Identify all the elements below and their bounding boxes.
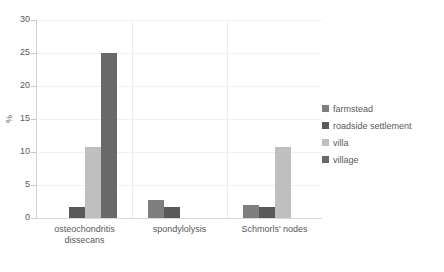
- x-category-label: Schmorls' nodes: [227, 224, 322, 235]
- x-axis-line: [37, 218, 322, 219]
- y-axis-ticks: 302520151050: [0, 0, 30, 272]
- bar: [69, 207, 85, 218]
- legend-swatch-icon: [322, 105, 329, 112]
- y-tick-label: 30: [4, 15, 30, 24]
- y-tick-mark: [31, 152, 36, 153]
- bar-group: [132, 20, 227, 218]
- y-tick-label: 15: [4, 114, 30, 123]
- y-tick-mark: [31, 86, 36, 87]
- legend-swatch-icon: [322, 156, 329, 163]
- legend-label: farmstead: [333, 104, 373, 114]
- y-tick-label: 20: [4, 81, 30, 90]
- y-tick-mark: [31, 20, 36, 21]
- bar: [259, 207, 275, 218]
- bar: [148, 200, 164, 218]
- legend-label: roadside settlement: [333, 121, 412, 131]
- x-category-label: spondylolysis: [132, 224, 227, 235]
- bar-chart: % 302520151050 osteochondritisdissecanss…: [0, 0, 444, 272]
- y-tick-mark: [31, 119, 36, 120]
- bar-group: [37, 20, 132, 218]
- y-tick-label: 0: [4, 213, 30, 222]
- bar: [164, 207, 180, 218]
- bar-group: [227, 20, 322, 218]
- legend-item[interactable]: farmstead: [322, 100, 442, 117]
- legend-item[interactable]: villa: [322, 134, 442, 151]
- y-tick-mark: [31, 53, 36, 54]
- legend-item[interactable]: village: [322, 151, 442, 168]
- x-category-label-line: osteochondritis: [37, 224, 132, 235]
- bar: [275, 147, 291, 218]
- bar: [85, 147, 101, 218]
- legend: farmsteadroadside settlementvillavillage: [322, 100, 442, 168]
- legend-swatch-icon: [322, 122, 329, 129]
- y-tick-label: 25: [4, 48, 30, 57]
- plot-area: [37, 20, 322, 218]
- legend-label: village: [333, 155, 359, 165]
- y-tick-label: 10: [4, 147, 30, 156]
- legend-label: villa: [333, 138, 349, 148]
- bar: [101, 53, 117, 218]
- y-tick-label: 5: [4, 180, 30, 189]
- legend-item[interactable]: roadside settlement: [322, 117, 442, 134]
- y-tick-mark: [31, 185, 36, 186]
- bar: [243, 205, 259, 218]
- y-tick-mark: [31, 218, 36, 219]
- x-category-label-line: dissecans: [37, 235, 132, 246]
- legend-swatch-icon: [322, 139, 329, 146]
- x-category-label: osteochondritisdissecans: [37, 224, 132, 246]
- x-category-label-line: spondylolysis: [132, 224, 227, 235]
- x-category-label-line: Schmorls' nodes: [227, 224, 322, 235]
